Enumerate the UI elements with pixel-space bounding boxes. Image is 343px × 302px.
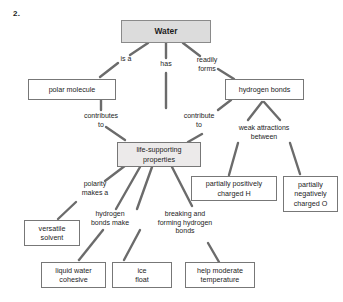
connector-life-breaking (172, 167, 192, 206)
edge-label-is-a: is a (114, 55, 138, 64)
node-partially-negatively-charged-o[interactable]: partially negatively charged O (283, 176, 338, 212)
connector-hbmake-liquid (79, 230, 103, 260)
node-ice-float[interactable]: ice float (112, 262, 172, 288)
node-life-supporting-properties-label: life-supporting properties (136, 145, 181, 163)
connector-contribute-life (188, 134, 202, 142)
node-help-moderate-temperature-label: help moderate temperature (197, 266, 243, 284)
connector-life-polarity (105, 165, 126, 181)
connector-hbonds-contribute (218, 100, 231, 110)
node-ice-float-label: ice float (135, 266, 149, 284)
node-partially-negatively-charged-o-label: partially negatively charged O (294, 180, 328, 208)
node-life-supporting-properties[interactable]: life-supporting properties (117, 142, 201, 167)
edge-label-readily-forms: readily forms (185, 56, 229, 73)
edge-label-has: has (152, 60, 180, 69)
connector-water-readily (183, 43, 200, 56)
connector-isa-polar (100, 63, 118, 77)
concept-map-page: 2. (0, 0, 343, 302)
node-polar-molecule-label: polar molecule (49, 85, 96, 94)
edge-label-hydrogen-bonds-make: hydrogen bonds make (82, 210, 138, 227)
edge-label-contribute-to: contribute to (172, 112, 226, 129)
connector-breaking-temp (208, 243, 219, 262)
node-water-label: Water (155, 27, 178, 36)
edge-label-weak-attractions-between: weak attractions between (226, 124, 302, 141)
node-help-moderate-temperature[interactable]: help moderate temperature (185, 262, 255, 288)
connector-life-hbmake2 (137, 167, 152, 209)
edge-label-polarity-makes-a: polarity makes a (73, 180, 117, 197)
edge-label-contributes-to: contributes to (73, 112, 129, 129)
node-liquid-water-cohesive-label: liquid water cohesive (55, 266, 91, 284)
node-partially-positively-charged-h-label: partially positively charged H (206, 179, 262, 197)
connector-life-hbmake1 (116, 167, 140, 209)
node-versatile-solvent[interactable]: versatile solvent (24, 220, 80, 246)
node-liquid-water-cohesive[interactable]: liquid water cohesive (41, 262, 106, 288)
connector-polarity-solvent (58, 202, 76, 219)
connector-hbonds-weak2 (264, 102, 280, 120)
edge-label-breaking-and-forming: breaking and forming hydrogen bonds (147, 210, 223, 236)
connector-water-isa (130, 43, 148, 55)
node-hydrogen-bonds[interactable]: hydrogen bonds (225, 79, 304, 100)
connector-weak-posh (229, 143, 238, 175)
node-polar-molecule[interactable]: polar molecule (28, 79, 116, 100)
node-water[interactable]: Water (121, 20, 211, 43)
connector-hbmake-ice (124, 230, 140, 260)
node-hydrogen-bonds-label: hydrogen bonds (239, 85, 291, 94)
connector-hbonds-weak (248, 102, 262, 120)
node-partially-positively-charged-h[interactable]: partially positively charged H (191, 176, 277, 201)
connector-weak-nego (290, 143, 300, 174)
node-versatile-solvent-label: versatile solvent (39, 224, 66, 242)
